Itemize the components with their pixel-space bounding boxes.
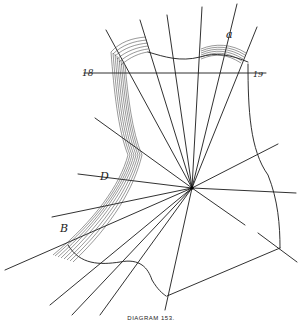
label-B: B <box>59 222 68 235</box>
ray <box>167 15 192 188</box>
ray <box>140 20 192 188</box>
label-a: a <box>226 28 233 41</box>
ray <box>50 188 192 305</box>
ray <box>192 7 202 188</box>
top-curve <box>148 52 248 62</box>
ray <box>192 188 296 193</box>
label-19: 19 <box>253 70 263 79</box>
label-18: 18 <box>82 68 94 78</box>
right-seam <box>248 64 280 248</box>
diagram-caption: DIAGRAM 153. <box>0 315 302 321</box>
ray <box>192 188 245 225</box>
label-D: D <box>99 170 109 183</box>
ray <box>5 188 192 270</box>
pattern-diagram: 18 19 a D B <box>0 0 302 330</box>
ray <box>192 144 278 188</box>
bottom-edge <box>167 248 280 296</box>
center-point <box>190 186 194 190</box>
radiating-lines <box>5 4 296 315</box>
ray <box>192 27 257 188</box>
ray <box>72 188 192 315</box>
top-left-arcs <box>111 37 148 65</box>
bottom-right-line <box>258 233 297 262</box>
